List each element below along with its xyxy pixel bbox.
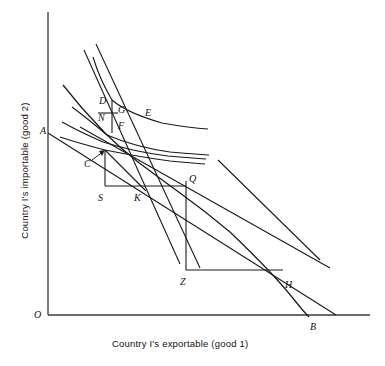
point-label-Z: Z: [180, 277, 186, 287]
point-label-C: C: [84, 159, 91, 169]
tangent-line-at-Q: [218, 160, 320, 260]
x-axis-title: Country I's exportable (good 1): [112, 338, 248, 349]
origin-label: O: [34, 310, 41, 320]
steep-line-1: [84, 50, 180, 264]
indifference-curve-3: [72, 107, 209, 155]
point-label-K: K: [134, 193, 141, 203]
point-label-F: F: [118, 121, 124, 131]
point-label-Q: Q: [189, 174, 196, 184]
point-label-D: D: [99, 96, 106, 106]
indifference-curve-1: [60, 137, 205, 164]
y-axis-title: Country I's importable (good 2): [19, 91, 30, 251]
indifference-curve-4: [93, 57, 208, 129]
point-label-G: G: [118, 105, 125, 115]
price-line-through-Q: [80, 127, 330, 268]
point-label-H: H: [285, 280, 292, 290]
point-label-B: B: [310, 322, 316, 332]
point-label-S: S: [98, 193, 103, 203]
economics-figure: Country I's exportable (good 1) Country …: [0, 0, 385, 366]
trade-box-lower: [186, 181, 283, 270]
budget-line-A-B: [48, 133, 336, 315]
c-pointer-arrowhead: [99, 150, 105, 156]
point-label-E: E: [145, 108, 151, 118]
point-label-N: N: [98, 113, 105, 123]
point-label-A: A: [40, 126, 46, 136]
c-pointer-arrow: [92, 150, 105, 160]
